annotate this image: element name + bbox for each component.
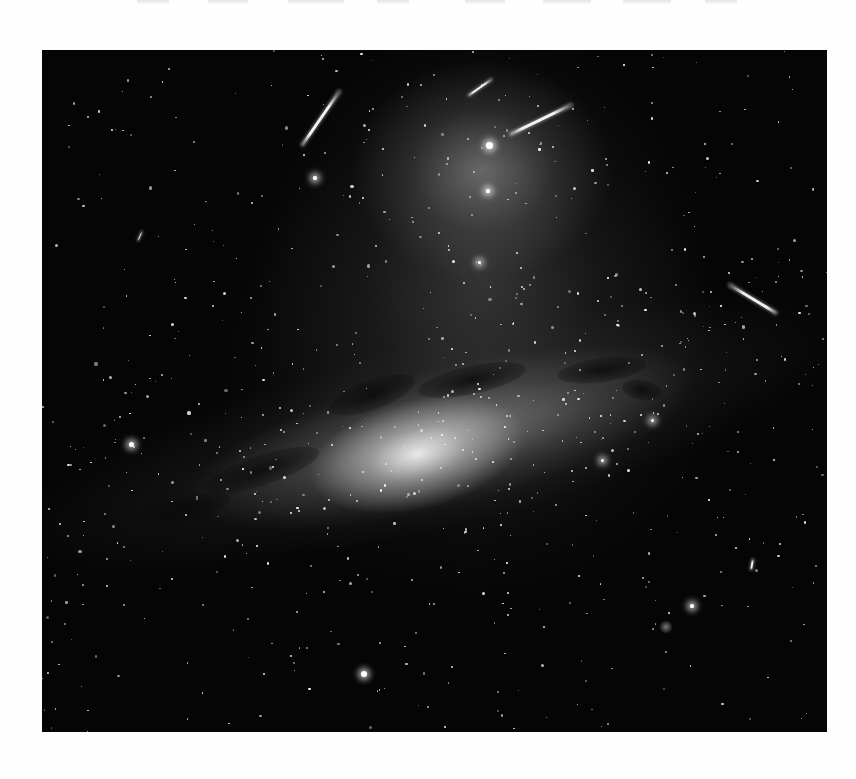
star (755, 569, 758, 572)
star (539, 144, 540, 145)
star (455, 364, 457, 366)
star (666, 172, 667, 173)
star (652, 628, 654, 630)
star (306, 647, 308, 649)
star (241, 389, 242, 390)
star (441, 337, 443, 339)
star (789, 259, 790, 260)
star (129, 413, 130, 414)
star (605, 158, 607, 160)
star (497, 691, 499, 693)
star (531, 497, 533, 499)
star (70, 464, 71, 465)
star (790, 640, 792, 642)
star (657, 413, 658, 414)
star (251, 587, 252, 588)
star (327, 533, 328, 534)
star (754, 373, 756, 375)
star (187, 662, 188, 663)
star (274, 313, 276, 315)
star (330, 631, 331, 632)
star (368, 129, 370, 131)
star (131, 392, 132, 393)
star (51, 727, 52, 728)
star (480, 263, 481, 264)
star (273, 50, 275, 52)
star (645, 586, 647, 588)
star (475, 458, 476, 459)
star (650, 297, 651, 298)
star (529, 284, 530, 285)
star (665, 651, 667, 653)
star (467, 485, 468, 486)
bright-star (478, 261, 481, 264)
star (778, 262, 779, 263)
star (272, 466, 274, 468)
star (451, 390, 454, 393)
star (596, 520, 597, 521)
star (384, 484, 386, 486)
star (503, 135, 504, 136)
star (101, 198, 102, 199)
star (720, 305, 721, 306)
star (224, 555, 226, 557)
star (692, 443, 693, 444)
star (360, 53, 362, 55)
streak-top-center (467, 78, 492, 97)
star (297, 329, 298, 330)
star (750, 463, 751, 464)
star (404, 445, 405, 446)
star (516, 293, 518, 295)
star (679, 343, 680, 344)
star (694, 226, 695, 227)
star (812, 385, 813, 386)
star (375, 245, 376, 246)
star (801, 718, 802, 719)
star (467, 430, 468, 431)
star (273, 372, 274, 373)
star (617, 320, 618, 321)
star (663, 688, 665, 690)
star (59, 523, 61, 525)
star (158, 473, 159, 474)
star (362, 471, 364, 473)
star (234, 357, 235, 358)
star (382, 174, 383, 175)
star (73, 102, 75, 104)
star (262, 501, 263, 502)
star (683, 215, 684, 216)
star (174, 279, 175, 280)
star (446, 98, 447, 99)
star (447, 394, 449, 396)
fuzzy-objects (42, 50, 827, 732)
star (223, 292, 226, 295)
star (607, 184, 609, 186)
star (111, 129, 113, 131)
star (187, 718, 188, 719)
star (510, 608, 511, 609)
star (320, 285, 322, 287)
star (448, 682, 449, 683)
star (296, 507, 298, 509)
star (290, 512, 291, 513)
star (580, 442, 581, 443)
star (259, 715, 261, 717)
star (473, 393, 475, 395)
star (528, 132, 530, 134)
star (54, 574, 56, 576)
star (721, 703, 723, 705)
star (789, 76, 790, 77)
star (826, 272, 827, 273)
star (621, 305, 623, 307)
star (480, 396, 482, 398)
star (737, 431, 738, 432)
star (87, 116, 89, 118)
star (178, 331, 179, 332)
star (128, 360, 129, 361)
star (694, 314, 696, 316)
star (661, 345, 663, 347)
star (242, 468, 243, 469)
star (581, 660, 582, 661)
star (269, 281, 270, 282)
clipped-text-fragment (208, 0, 248, 4)
